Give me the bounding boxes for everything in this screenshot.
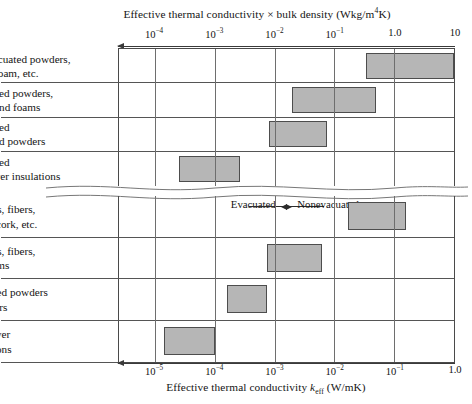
top-tick-5: 10 — [450, 27, 461, 38]
top-row-label: Evacuated multilayer insulations — [0, 155, 113, 184]
top-gridline-4 — [394, 49, 395, 186]
bottom-panel-rows: Powders, fibers, foams, cork, etc.Powder… — [119, 196, 454, 362]
top-gridline-1 — [215, 49, 216, 186]
top-axis-ticks: 10−410−310−210−11.010 — [0, 27, 472, 43]
top-tick-0: 10−4 — [145, 27, 163, 40]
bottom-row-separator — [1, 237, 119, 238]
bottom-row: Powders, fibers, and foams — [119, 238, 454, 280]
top-gridline-3 — [334, 49, 335, 186]
top-panel-rows: Nonevacuated powders, fibers, foam, etc.… — [119, 49, 454, 186]
bottom-row-label: Powders, fibers, and foams — [0, 243, 113, 272]
bottom-row-label: Multilayer insulations — [0, 327, 113, 356]
bottom-gridline-1 — [215, 196, 216, 362]
bottom-row-label: Powders, fibers, foams, cork, etc. — [0, 202, 113, 231]
bottom-axis-title: Effective thermal conductivity keff (W/m… — [0, 381, 472, 396]
top-row-label: Nonevacuated powders, fibers, foam, etc. — [0, 51, 113, 80]
top-axis-title: Effective thermal conductivity × bulk de… — [0, 6, 472, 20]
top-row-separator — [1, 117, 119, 118]
bottom-tick-1: 10−4 — [205, 364, 223, 377]
bottom-tick-2: 10−3 — [265, 364, 283, 377]
bottom-row: Powders, fibers, foams, cork, etc. — [119, 196, 454, 238]
top-row-separator — [1, 151, 119, 152]
bottom-tick-5: 1.0 — [448, 364, 461, 375]
bottom-row: Opacified powders and fibers — [119, 279, 454, 321]
bottom-gridline-4 — [394, 196, 395, 362]
top-row-label: Evacuated powders, fibers, and foams — [0, 86, 113, 115]
top-axis-arrow — [118, 46, 455, 47]
bottom-tick-4: 10−1 — [386, 364, 404, 377]
top-row-label: Evacuated opacified powders — [0, 120, 113, 149]
top-axis-title-text: Effective thermal conductivity × bulk de… — [123, 8, 390, 20]
top-row-separator — [1, 82, 119, 83]
top-range-bar — [366, 53, 454, 79]
bottom-gridline-0 — [155, 196, 156, 362]
bottom-frame-rule — [1, 362, 119, 363]
top-gridline-0 — [155, 49, 156, 186]
bottom-panel: Powders, fibers, foams, cork, etc.Powder… — [118, 196, 455, 363]
top-tick-1: 10−3 — [205, 27, 223, 40]
bottom-range-bar — [267, 244, 322, 272]
bottom-range-bar — [227, 285, 267, 313]
top-row: Evacuated multilayer insulations — [119, 152, 454, 186]
bottom-gridline-3 — [334, 196, 335, 362]
bottom-range-bar — [348, 202, 407, 230]
insulation-conductivity-chart: Effective thermal conductivity × bulk de… — [0, 0, 472, 404]
top-tick-4: 1.0 — [388, 27, 401, 38]
top-row: Evacuated powders, fibers, and foams — [119, 83, 454, 117]
top-tick-3: 10−1 — [326, 27, 344, 40]
bottom-row-label: Opacified powders and fibers — [0, 285, 113, 314]
top-range-bar — [179, 156, 240, 182]
bottom-row-separator — [1, 320, 119, 321]
top-panel: Nonevacuated powders, fibers, foam, etc.… — [118, 48, 455, 186]
bottom-range-bar — [164, 327, 215, 355]
top-tick-2: 10−2 — [265, 27, 283, 40]
top-range-bar — [269, 121, 327, 147]
top-row: Evacuated opacified powders — [119, 118, 454, 152]
bottom-gridline-2 — [275, 196, 276, 362]
top-gridline-2 — [275, 49, 276, 186]
bottom-axis-title-text: Effective thermal conductivity keff (W/m… — [166, 381, 365, 393]
bottom-tick-0: 10−5 — [145, 364, 163, 377]
bottom-axis-ticks: 10−510−410−310−210−11.0 — [0, 364, 472, 380]
top-row: Nonevacuated powders, fibers, foam, etc. — [119, 49, 454, 83]
bottom-row: Multilayer insulations — [119, 321, 454, 363]
bottom-tick-3: 10−2 — [326, 364, 344, 377]
bottom-row-separator — [1, 278, 119, 279]
